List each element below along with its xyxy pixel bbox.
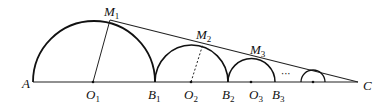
label-o2: O2 bbox=[184, 87, 198, 104]
point-on bbox=[312, 81, 315, 84]
label-o3: O3 bbox=[249, 87, 263, 104]
diagram-canvas: A O1 B1 O2 B2 O3 B3 M1 M2 M3 C ··· bbox=[0, 0, 389, 107]
point-o2 bbox=[190, 81, 193, 84]
label-a: A bbox=[21, 76, 30, 91]
label-m1: M1 bbox=[103, 4, 119, 21]
point-o3 bbox=[250, 81, 253, 84]
label-o1: O1 bbox=[86, 87, 100, 104]
point-o1 bbox=[92, 81, 95, 84]
label-m3: M3 bbox=[249, 42, 266, 59]
ellipsis: ··· bbox=[281, 68, 291, 79]
semicircle-2 bbox=[155, 45, 228, 82]
semicircle-1 bbox=[33, 21, 155, 82]
label-m2: M2 bbox=[195, 27, 211, 44]
radius-o2m2-dashed bbox=[191, 44, 203, 82]
semicircle-3 bbox=[228, 58, 275, 82]
semicircle-n bbox=[301, 70, 325, 82]
label-c: C bbox=[363, 78, 372, 93]
label-b3: B3 bbox=[272, 87, 285, 104]
radius-o1m1 bbox=[93, 20, 110, 82]
label-b1: B1 bbox=[148, 87, 160, 104]
geometry-diagram: A O1 B1 O2 B2 O3 B3 M1 M2 M3 C ··· bbox=[0, 0, 389, 107]
label-b2: B2 bbox=[222, 87, 234, 104]
